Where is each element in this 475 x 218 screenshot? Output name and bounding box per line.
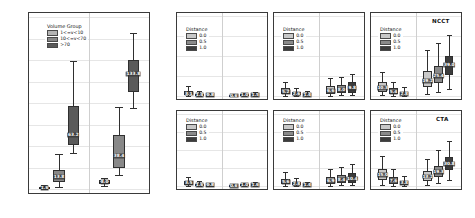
whisker-cap-lower [55,187,62,188]
legend-item[interactable]: 0.0 [283,33,304,38]
legend-item[interactable]: 0.5 [186,40,207,45]
box-value-label: 2.8 [400,91,409,96]
legend-item-label: 0.5 [199,131,206,136]
legend-item[interactable]: 1.0 [380,137,401,142]
legend-item[interactable]: 1.0 [380,46,401,51]
box-value-label: 3.5 [184,181,193,186]
box-value-label: 38.4 [113,154,125,159]
legend-item-label: 10<=v<70 [60,37,86,42]
legend-swatch-icon [380,40,391,45]
legend-item[interactable]: 1.0 [186,46,207,51]
whisker-cap-lower [447,180,453,181]
whisker-cap-lower [436,92,442,93]
group-separator [416,13,417,99]
legend-item[interactable]: 10<=v<70 [47,37,86,42]
legend-swatch-icon [283,40,294,45]
legend-item[interactable]: >70 [47,43,86,48]
whisker-cap-lower [447,89,453,90]
legend-swatch-icon [380,131,391,136]
box-value-label: 1.0 [240,93,249,98]
group-separator [222,13,223,99]
whisker-cap-upper [350,164,356,165]
group-separator [319,111,320,189]
box-value-label: 10.3 [377,85,389,90]
legend-item[interactable]: 1<=v<10 [47,30,86,35]
whisker-cap-lower [380,95,386,96]
legend-item[interactable]: 0.5 [186,131,207,136]
legend-item[interactable]: 0.0 [186,33,207,38]
legend-item[interactable]: 1.0 [186,137,207,142]
whisker-cap-upper [380,72,386,73]
panel-cta-v70: 0255075100Volume [ml]15.07.63.8Excess Vo… [370,110,462,190]
whisker-cap-upper [283,172,289,173]
whisker-cap-lower [425,94,431,95]
box-value-label: 8.4 [337,177,346,182]
chart-legend: Distance0.00.51.0 [281,26,306,54]
legend-title: Distance [186,118,207,123]
legend-item[interactable]: 1.0 [283,46,304,51]
box-value-label: 1.0 [240,183,249,188]
legend-swatch-icon [186,33,197,38]
legend-swatch-icon [380,124,391,129]
legend-item[interactable]: 0.0 [283,124,304,129]
legend-item[interactable]: 0.5 [380,40,401,45]
legend-item[interactable]: 0.0 [380,124,401,129]
legend-item-label: 0.0 [296,125,303,130]
whisker-cap-upper [402,176,408,177]
whisker-cap-upper [339,77,345,78]
box-value-label: 0.6 [229,93,238,98]
legend-swatch-icon [380,46,391,51]
box-body [68,106,79,146]
box-value-label: 0.8 [206,183,215,188]
whisker-cap-lower [115,175,122,176]
box-value-label: 5.4 [389,89,398,94]
legend-item-label: 1.0 [199,46,206,51]
whisker-cap-upper [328,78,334,79]
legend-swatch-icon [186,124,197,129]
box-value-label: 2.6 [292,91,301,96]
legend-item-label: 1.0 [199,137,206,142]
box-value-label: 25.4 [433,73,445,78]
plot-area-ncct-v10-70: 0255075100Volume [ml]5.22.61.46.68.09.8D… [274,13,364,99]
whisker-cap-upper [70,61,77,62]
whisker-cap-upper [425,159,431,160]
whisker-cap-lower [391,186,397,187]
plot-area-cta-v70: 0255075100Volume [ml]15.07.63.8Excess Vo… [371,111,461,189]
panel-cta-v1-10: 0255075100Volume [ml]3.51.60.8Excess Vol… [176,110,268,190]
whisker-cap-upper [186,86,192,87]
legend-title: Distance [283,27,304,32]
whisker-cap-upper [294,178,300,179]
whisker-cap-lower [350,185,356,186]
legend-item[interactable]: 1.0 [283,137,304,142]
box-value-label: 8.0 [100,180,109,185]
whisker-cap-lower [328,96,334,97]
boxplot-figure: 0255075100125150175200Volume [ml]1.613.8… [0,0,475,218]
whisker-cap-upper [436,43,442,44]
whisker-cap-lower [328,186,334,187]
legend-item[interactable]: 0.0 [380,33,401,38]
whisker-cap-upper [436,150,442,151]
box-value-label: 0.6 [229,183,238,188]
legend-item[interactable]: 0.5 [283,131,304,136]
whisker-cap-upper [425,50,431,51]
box-value-label: 3.1 [184,91,193,96]
legend-item-label: 1.0 [296,137,303,142]
legend-item[interactable]: 0.5 [380,131,401,136]
legend-item-label: 0.0 [296,34,303,39]
chart-legend: Distance0.00.51.0 [378,26,403,54]
chart-legend: Distance0.00.51.0 [378,117,403,145]
whisker-cap-lower [402,186,408,187]
group-separator [319,13,320,99]
whisker-cap-upper [130,33,137,34]
box-value-label: 9.8 [348,86,357,91]
whisker-cap-lower [130,108,137,109]
legend-item[interactable]: 0.5 [283,40,304,45]
legend-swatch-icon [186,40,197,45]
whisker-cap-lower [101,186,108,187]
whisker-cap-lower [425,185,431,186]
legend-swatch-icon [186,46,197,51]
box-value-label: 5.6 [281,180,290,185]
legend-item-label: 1.0 [296,46,303,51]
legend-item[interactable]: 0.0 [186,124,207,129]
panel-tag-cta: CTA [436,116,448,122]
